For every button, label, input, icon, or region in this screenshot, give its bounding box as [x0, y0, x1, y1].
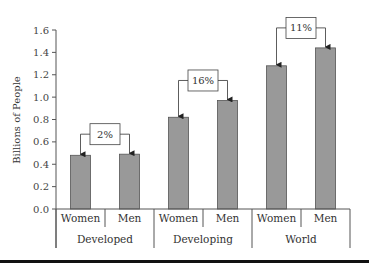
y-axis-label: Billions of People: [11, 76, 22, 164]
percent-label: 2%: [97, 129, 113, 140]
x-category-label: Women: [159, 212, 199, 224]
x-category-label: Men: [216, 212, 240, 224]
bar-chart: 0.00.20.40.60.81.01.21.41.6 WomenMenDeve…: [0, 0, 369, 266]
annotations: 2%16%11%: [81, 17, 326, 154]
bar-world-men: [316, 48, 336, 209]
x-axis: WomenMenDevelopedWomenMenDevelopingWomen…: [56, 209, 350, 248]
y-tick-label: 0.4: [33, 159, 49, 170]
y-tick-label: 1.2: [33, 69, 49, 80]
y-tick-label: 0.0: [33, 204, 49, 215]
bar-developed-men: [120, 154, 140, 209]
y-tick-label: 0.6: [33, 136, 49, 147]
bar-world-women: [267, 66, 287, 209]
y-tick-label: 0.2: [33, 181, 49, 192]
x-category-label: Women: [61, 212, 101, 224]
x-group-label: Developing: [173, 233, 233, 245]
percent-label: 16%: [192, 75, 214, 86]
percent-label: 11%: [290, 22, 312, 33]
x-category-label: Men: [118, 212, 142, 224]
y-tick-label: 1.4: [33, 47, 49, 58]
y-axis: 0.00.20.40.60.81.01.21.41.6: [33, 25, 56, 249]
x-category-label: Men: [314, 212, 338, 224]
annotation-developed: 2%: [81, 124, 130, 155]
bar-developing-women: [169, 117, 189, 209]
bar-developing-men: [218, 100, 238, 209]
x-group-label: Developed: [77, 233, 133, 245]
y-tick-label: 1.6: [33, 25, 49, 36]
x-group-label: World: [285, 233, 317, 245]
bottom-rule: [0, 260, 369, 263]
y-tick-label: 1.0: [33, 92, 49, 103]
x-category-label: Women: [257, 212, 297, 224]
bar-developed-women: [71, 155, 91, 209]
y-tick-label: 0.8: [33, 114, 49, 125]
